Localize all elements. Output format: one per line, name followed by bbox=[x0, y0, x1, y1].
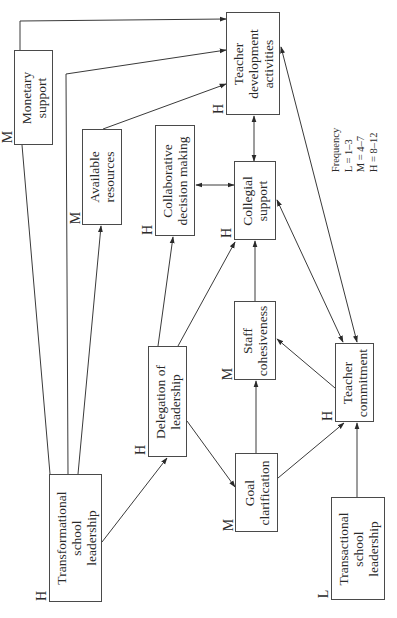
edge-goal-commitment bbox=[278, 423, 344, 478]
node-transformational-school-leadership: Transformational school leadership bbox=[49, 474, 102, 602]
edge-commitment-collegial bbox=[277, 200, 343, 342]
node-staff-cohesiveness: Staff cohesiveness bbox=[234, 301, 276, 380]
edge-delegation-cdm bbox=[158, 237, 173, 346]
node-goal-clarification: Goal clarification bbox=[235, 453, 278, 532]
freq-delegation-of-leadership: H bbox=[133, 445, 149, 455]
edge-commitment-staff bbox=[277, 339, 335, 388]
node-label: Teacher commitment bbox=[340, 348, 370, 416]
freq-goal-clarification: M bbox=[221, 519, 237, 531]
legend-text: Frequency L = 1–3 M = 4–7 H = 8–12 bbox=[330, 128, 380, 172]
edge-delegation-goal bbox=[187, 421, 235, 487]
node-label: Available resources bbox=[87, 151, 117, 202]
node-label: Monetary support bbox=[19, 71, 49, 123]
edge-transformational-resources bbox=[78, 226, 101, 474]
edge-transformational-monetary bbox=[22, 145, 50, 474]
node-label: Collaborative decision making bbox=[160, 136, 190, 225]
freq-collaborative-decision-making: H bbox=[140, 225, 156, 235]
freq-staff-cohesiveness: M bbox=[220, 368, 236, 380]
path-diagram: Monetary support M Teacher development a… bbox=[0, 0, 397, 618]
frequency-legend: Frequency L = 1–3 M = 4–7 H = 8–12 bbox=[330, 100, 380, 200]
node-teacher-development-activities: Teacher development activities bbox=[226, 12, 280, 115]
node-collaborative-decision-making: Collaborative decision making bbox=[155, 125, 195, 236]
node-label: Transformational school leadership bbox=[53, 491, 98, 584]
node-label: Transactional school leadership bbox=[336, 512, 381, 585]
node-available-resources: Available resources bbox=[82, 129, 122, 225]
node-monetary-support: Monetary support bbox=[14, 50, 53, 145]
node-label: Delegation of leadership bbox=[153, 365, 183, 439]
freq-teacher-commitment: H bbox=[320, 411, 336, 421]
edge-transformational-delegation bbox=[102, 458, 167, 542]
edge-resources-tda bbox=[103, 84, 226, 129]
freq-transformational-school-leadership: H bbox=[34, 591, 50, 601]
freq-monetary-support: M bbox=[0, 131, 16, 143]
freq-teacher-development-activities: H bbox=[211, 104, 227, 114]
node-collegial-support: Collegial support bbox=[234, 161, 276, 240]
node-teacher-commitment: Teacher commitment bbox=[335, 343, 374, 422]
node-transactional-school-leadership: Transactional school leadership bbox=[331, 497, 385, 600]
node-delegation-of-leadership: Delegation of leadership bbox=[148, 346, 187, 457]
edge-monetary-tda bbox=[20, 19, 226, 50]
freq-transactional-school-leadership: L bbox=[316, 590, 332, 599]
freq-collegial-support: H bbox=[219, 228, 235, 238]
node-label: Staff cohesiveness bbox=[240, 305, 270, 375]
freq-available-resources: M bbox=[68, 212, 84, 224]
node-label: Teacher development activities bbox=[231, 29, 276, 99]
edge-delegation-collegial bbox=[178, 242, 235, 346]
node-label: Goal clarification bbox=[242, 460, 272, 525]
node-label: Collegial support bbox=[240, 176, 270, 226]
